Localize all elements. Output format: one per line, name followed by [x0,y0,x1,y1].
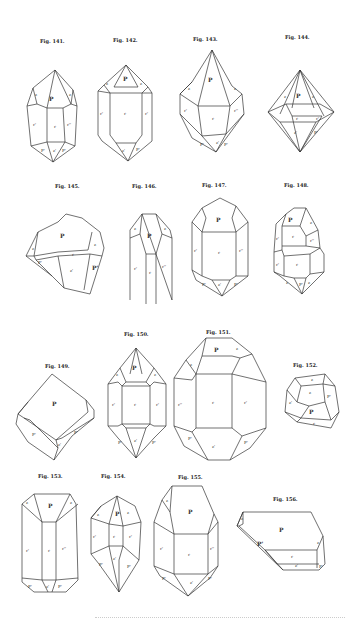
crystal-fig-156: P z z r z' P' P' [235,506,331,572]
caption-fig-145: Fig. 145. [55,183,80,189]
svg-text:z': z' [113,556,116,561]
svg-text:r': r' [156,402,159,407]
svg-text:P': P' [152,440,156,445]
svg-text:r: r [188,552,190,557]
svg-text:z': z' [212,444,215,449]
caption-fig-142: Fig. 142. [113,37,138,43]
svg-text:r: r [72,252,74,257]
svg-text:P': P' [41,148,45,153]
caption-fig-154: Fig. 154. [101,473,126,479]
svg-text:z': z' [216,140,219,145]
svg-text:z: z [127,510,129,515]
svg-text:r': r' [276,236,279,241]
svg-text:P': P' [208,576,212,581]
svg-text:z: z [236,346,238,351]
svg-text:P: P [48,502,53,509]
caption-fig-147: Fig. 147. [202,182,227,188]
svg-text:P': P' [299,282,303,287]
svg-text:z': z' [46,584,49,589]
svg-text:P': P' [32,432,36,437]
svg-text:r'': r'' [67,122,71,127]
svg-text:r: r [212,400,214,405]
svg-text:P': P' [224,142,228,147]
caption-fig-152: Fig. 152. [293,362,318,368]
svg-text:z': z' [122,148,125,153]
caption-fig-155: Fig. 155. [178,474,203,480]
svg-text:P: P [216,216,221,223]
svg-text:z: z [312,94,314,99]
svg-text:r': r' [244,400,247,405]
svg-text:P: P [60,232,65,239]
svg-text:r': r' [134,266,137,271]
svg-text:r': r' [276,262,279,267]
svg-text:r': r' [316,116,319,121]
crystal-fig-144: P z z r r' z' P' [266,68,336,154]
svg-text:P': P' [244,440,248,445]
svg-text:r: r [292,234,294,239]
svg-text:P': P' [200,142,204,147]
svg-text:z: z [116,372,118,377]
svg-text:P': P' [136,147,140,152]
svg-text:r: r [296,116,298,121]
svg-text:z: z [188,86,190,91]
svg-text:r: r [296,262,298,267]
svg-text:z: z [311,377,313,382]
svg-text:P: P [296,92,301,99]
svg-text:z': z' [289,400,292,405]
svg-text:P: P [214,346,219,353]
svg-text:z': z' [294,130,297,135]
svg-text:r': r' [100,111,103,116]
svg-text:z: z [32,246,34,251]
svg-text:P': P' [92,264,99,271]
svg-text:r: r [134,402,136,407]
svg-text:P: P [115,510,120,517]
crystal-fig-142: P z z r' r r' z' P' [96,63,156,163]
svg-text:z: z [140,81,142,86]
svg-text:P': P' [74,430,78,435]
svg-text:r': r' [184,108,187,113]
svg-text:r': r' [194,248,197,253]
svg-text:P': P' [62,148,66,153]
svg-text:z: z [164,226,166,231]
svg-text:z: z [317,540,319,545]
svg-text:r': r' [160,546,163,551]
svg-text:r: r [124,111,126,116]
svg-text:z': z' [53,148,56,153]
caption-fig-144: Fig. 144. [285,34,310,40]
crystal-fig-148: P z r r' r'' r r' z P' z [270,206,326,296]
svg-text:z: z [106,81,108,86]
svg-text:P': P' [327,394,331,399]
svg-text:r': r' [112,402,115,407]
svg-text:P: P [208,76,213,83]
svg-text:P: P [147,232,152,239]
svg-text:P': P' [118,440,122,445]
svg-text:P': P' [127,564,131,569]
caption-fig-148: Fig. 148. [284,182,309,188]
svg-text:z: z [308,280,310,285]
svg-text:P: P [52,400,57,407]
svg-text:P: P [49,95,54,102]
svg-text:r': r' [145,111,148,116]
svg-text:z: z [94,242,96,247]
svg-text:z: z [310,220,312,225]
crystal-fig-155: P z r' r r'' P' z' P' [152,484,222,598]
svg-text:z: z [284,94,286,99]
svg-text:P': P' [188,436,192,441]
crystal-fig-150: P z z r' r r' P' z' P' [106,346,168,460]
svg-text:r: r [218,250,220,255]
svg-text:r'': r'' [178,402,182,407]
svg-text:z: z [26,500,28,505]
svg-text:P': P' [38,260,42,265]
svg-text:z: z [154,372,156,377]
svg-text:z: z [97,512,99,517]
caption-fig-151: Fig. 151. [206,329,231,335]
svg-text:P: P [132,364,137,371]
svg-text:r'': r'' [62,546,66,551]
svg-text:P: P [188,508,193,515]
caption-fig-146: Fig. 146. [132,183,157,189]
svg-text:r': r' [33,122,36,127]
svg-text:P: P [288,216,293,223]
caption-fig-149: Fig. 149. [45,363,70,369]
svg-text:z': z' [218,282,221,287]
caption-fig-156: Fig. 156. [273,496,298,502]
